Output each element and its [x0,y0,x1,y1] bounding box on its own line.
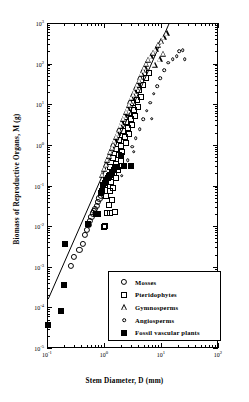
data-point [138,94,144,100]
y-tick-minor-right [215,113,218,114]
y-tick-minor [47,187,50,188]
data-point [181,48,185,52]
data-point [160,50,166,56]
x-tick-minor-top [188,23,189,26]
data-point [130,145,134,149]
data-point [132,113,138,119]
y-tick-minor-right [215,92,218,93]
y-tick-minor-right [215,235,218,236]
x-tick-minor-top [201,23,202,26]
legend-marker [121,292,127,298]
y-tick-minor [47,85,50,86]
data-point [112,209,118,215]
y-tick-minor-right [215,151,218,152]
y-tick-minor [47,271,50,272]
y-tick-label: 101 [36,101,44,108]
y-tick-minor [47,116,50,117]
y-tick-minor-right [215,35,218,36]
y-tick-major [47,226,52,227]
x-tick-minor-top [101,23,102,26]
y-tick-minor [47,111,50,112]
y-tick-minor [47,311,50,312]
legend-label: Fossil vascular plants [135,329,200,336]
y-tick-minor-right [215,116,218,117]
y-tick-minor [47,316,50,317]
data-point [132,150,136,154]
y-tick-minor [47,195,50,196]
y-tick-minor-right [215,39,218,40]
x-tick-major-top [47,23,48,28]
y-tick-major-right [213,267,218,268]
data-point [152,61,158,67]
y-tick-minor [47,192,50,193]
legend-label: Gymnosperms [135,304,178,311]
data-point [121,163,127,169]
y-tick-minor-right [215,154,218,155]
y-tick-label: 10-3 [34,263,44,270]
data-point [126,158,130,162]
y-tick-minor [47,295,50,296]
y-tick-minor [47,198,50,199]
y-tick-major-right [213,348,218,349]
data-point [95,211,101,217]
x-tick-minor-top [152,23,153,26]
y-tick-major [47,104,52,105]
y-tick-minor [47,65,50,66]
x-tick-minor-top [178,23,179,26]
y-tick-major-right [213,226,218,227]
y-tick-minor [47,157,50,158]
y-tick-minor [47,35,50,36]
data-point [135,104,141,110]
y-tick-label: 102 [36,60,44,67]
y-tick-minor [47,329,50,330]
y-tick-minor-right [215,228,218,229]
data-point [118,153,124,159]
y-tick-minor-right [215,214,218,215]
legend-marker [121,304,127,310]
data-point [45,322,51,328]
y-tick-minor [47,232,50,233]
y-tick-minor [47,92,50,93]
data-point [142,117,146,121]
y-tick-minor [47,80,50,81]
x-tick-minor [212,345,213,348]
data-point [159,76,163,80]
y-tick-minor-right [215,269,218,270]
x-tick-minor [74,345,75,348]
y-tick-minor [47,269,50,270]
y-axis-title: Biomass of Reproductive Organs, M (g) [13,84,21,274]
y-tick-minor-right [215,108,218,109]
legend-label: Pteridophytes [135,291,177,298]
y-tick-minor-right [215,147,218,148]
x-tick-minor-top [144,23,145,26]
y-tick-minor [47,309,50,310]
legend-item: Mosses [109,276,220,289]
data-point [145,109,149,113]
x-tick-minor [152,345,153,348]
y-tick-minor-right [215,32,218,33]
legend-marker-icon [116,316,132,325]
x-tick-label: 102 [214,351,222,358]
y-tick-minor-right [215,187,218,188]
x-tick-minor [87,345,88,348]
y-tick-minor [47,247,50,248]
x-tick-minor-top [91,23,92,26]
x-tick-minor [188,345,189,348]
y-tick-minor-right [215,238,218,239]
y-tick-minor [47,149,50,150]
data-point [171,57,175,61]
x-tick-minor-top [212,23,213,26]
x-tick-minor [101,345,102,348]
data-point [85,221,91,227]
x-tick-minor-top [64,23,65,26]
x-tick-minor-top [98,23,99,26]
y-tick-minor-right [215,51,218,52]
y-tick-minor [47,283,50,284]
legend-marker-icon [116,303,132,312]
y-tick-minor [47,44,50,45]
y-tick-minor [47,336,50,337]
data-point [150,117,154,121]
data-point [163,69,167,73]
x-tick-label: 10-1 [42,351,52,358]
data-point [148,101,152,105]
